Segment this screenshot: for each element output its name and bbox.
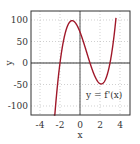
curve-annotation: y = f'(x)	[85, 90, 122, 100]
x-tick-label: -2	[56, 120, 65, 130]
x-axis-label: x	[77, 130, 82, 140]
chart: -4-2024 100500-50-100 x y y = f'(x)	[0, 0, 140, 144]
y-tick-label: 0	[22, 58, 28, 68]
x-tick-label: 0	[77, 120, 83, 130]
y-tick-label: -100	[8, 101, 28, 111]
y-tick-label: -50	[14, 80, 29, 90]
x-tick-label: 2	[97, 120, 103, 130]
y-tick-label: 100	[11, 15, 28, 25]
derivative-curve	[54, 18, 116, 115]
x-ticks: -4-2024	[36, 120, 124, 130]
y-axis-label: y	[4, 60, 14, 67]
y-tick-label: 50	[17, 37, 29, 47]
x-tick-label: -4	[36, 120, 45, 130]
x-tick-label: 4	[117, 120, 123, 130]
